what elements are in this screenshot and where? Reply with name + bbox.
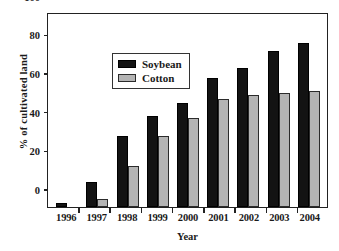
- bar-soybean-1997: [86, 182, 97, 207]
- x-axis-title: Year: [47, 231, 328, 242]
- x-axis-labels: 199619971998199920002001200220032004: [47, 212, 328, 223]
- bar-soybean-2000: [177, 103, 188, 207]
- x-tick-label-2001: 2001: [203, 212, 233, 223]
- chart-legend: Soybean Cotton: [112, 53, 190, 89]
- x-tick-label-2000: 2000: [173, 212, 203, 223]
- y-tick-80: 80: [30, 26, 49, 44]
- legend-label-cotton: Cotton: [142, 72, 174, 84]
- legend-item-soybean: Soybean: [118, 57, 182, 71]
- y-tick-label: 20: [30, 146, 45, 157]
- bar-cotton-2002: [248, 95, 259, 207]
- bar-soybean-2002: [237, 68, 248, 207]
- y-tick-label: 0: [35, 185, 44, 196]
- bar-chart-figure: % of cultivated land 020406080100 Soybea…: [0, 0, 339, 251]
- bar-group-1996: [52, 14, 82, 207]
- x-tick-label-1997: 1997: [81, 212, 111, 223]
- legend-swatch-cotton: [118, 74, 136, 82]
- bar-cotton-1998: [128, 166, 139, 207]
- bar-soybean-1996: [56, 203, 67, 207]
- bar-group-2000: [173, 14, 203, 207]
- y-tick-60: 60: [30, 64, 49, 82]
- bar-group-2004: [294, 14, 324, 207]
- y-tick-label: 40: [30, 108, 45, 119]
- y-tick-label: 60: [30, 69, 45, 80]
- bar-groups: [48, 14, 327, 207]
- x-tick-label-1996: 1996: [51, 212, 81, 223]
- y-tick-label: 100: [24, 0, 44, 3]
- bar-soybean-1999: [147, 116, 158, 207]
- bar-cotton-1999: [158, 136, 169, 207]
- bar-cotton-1997: [97, 199, 108, 207]
- bar-group-2001: [203, 14, 233, 207]
- x-tick-label-1999: 1999: [142, 212, 172, 223]
- bar-group-1999: [143, 14, 173, 207]
- bar-soybean-2004: [298, 43, 309, 207]
- bar-soybean-2001: [207, 78, 218, 207]
- y-tick-20: 20: [30, 141, 49, 159]
- bar-group-2003: [264, 14, 294, 207]
- x-tick-label-1998: 1998: [112, 212, 142, 223]
- y-tick-label: 80: [30, 30, 45, 41]
- y-tick-40: 40: [30, 103, 49, 121]
- bar-cotton-2000: [188, 118, 199, 207]
- legend-swatch-soybean: [118, 60, 136, 68]
- x-tick-label-2002: 2002: [234, 212, 264, 223]
- bar-cotton-2004: [309, 91, 320, 207]
- bar-soybean-1998: [117, 136, 128, 207]
- x-tick-label-2003: 2003: [264, 212, 294, 223]
- bar-soybean-2003: [268, 51, 279, 207]
- y-tick-100: 100: [24, 0, 48, 5]
- y-tick-0: 0: [35, 180, 48, 198]
- legend-item-cotton: Cotton: [118, 71, 182, 85]
- x-tick-label-2004: 2004: [295, 212, 325, 223]
- bar-cotton-2003: [279, 93, 290, 207]
- bar-group-2002: [233, 14, 263, 207]
- bar-group-1997: [82, 14, 112, 207]
- legend-label-soybean: Soybean: [142, 58, 182, 70]
- bar-group-1998: [112, 14, 142, 207]
- plot-area: 020406080100 Soybean Cotton: [47, 13, 328, 208]
- bar-cotton-2001: [218, 99, 229, 207]
- y-axis-title: % of cultivated land: [18, 22, 29, 182]
